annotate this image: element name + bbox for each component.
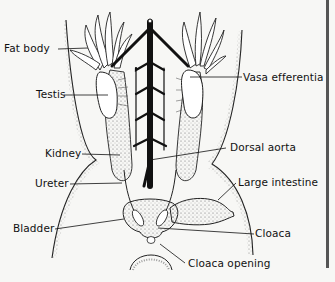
label-cloaca: Cloaca <box>255 227 291 239</box>
label-cloaca-opening: Cloaca opening <box>188 257 271 269</box>
label-ureter: Ureter <box>35 177 69 189</box>
bladder <box>123 199 178 244</box>
label-fat-body: Fat body <box>4 42 50 54</box>
label-bladder: Bladder <box>13 222 54 234</box>
label-testis: Testis <box>36 88 66 100</box>
label-large-intestine: Large intestine <box>238 176 318 188</box>
large-intestine <box>170 198 234 224</box>
label-dorsal-aorta: Dorsal aorta <box>230 141 296 153</box>
label-vasa-efferentia: Vasa efferentia <box>243 71 324 83</box>
fat-body-left <box>70 12 132 70</box>
label-kidney: Kidney <box>45 147 81 159</box>
fat-body-right <box>182 12 226 74</box>
page-edge-rule <box>326 0 329 268</box>
cloaca-opening-arch <box>130 255 172 270</box>
